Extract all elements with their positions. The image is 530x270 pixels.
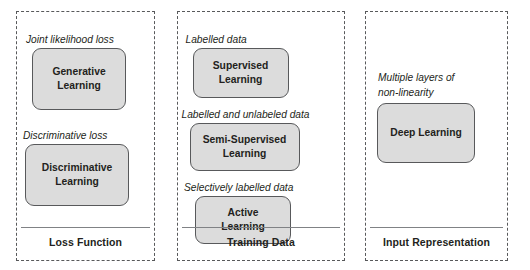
group-panel-loss-function-inner: Joint likelihood loss Generative Learnin… <box>17 12 154 260</box>
caption-selectively-labelled-data: Selectively labelled data <box>184 181 293 194</box>
group-panel-loss-function: Joint likelihood loss Generative Learnin… <box>16 11 155 261</box>
group-panel-input-representation-inner: Multiple layers of non-linearity Deep Le… <box>366 12 507 260</box>
node-label-line-2: Learning <box>219 73 262 87</box>
node-label-line-1: Generative <box>52 65 105 79</box>
node-label-line-1: Active <box>228 206 259 220</box>
node-semi-supervised-learning[interactable]: Semi-Supervised Learning <box>190 123 300 171</box>
item-discriminative-learning: Discriminative loss Discriminative Learn… <box>11 129 160 206</box>
group-footer-loss-function: Loss Function <box>21 227 150 256</box>
node-label-line-1: Discriminative <box>42 161 112 175</box>
group-footer-label-input-representation: Input Representation <box>383 236 490 248</box>
group-body-input-representation: Multiple layers of non-linearity Deep Le… <box>366 12 507 226</box>
taxonomy-diagram: Joint likelihood loss Generative Learnin… <box>0 0 530 270</box>
node-supervised-learning[interactable]: Supervised Learning <box>193 48 289 98</box>
node-label-line-2: Learning <box>57 79 100 93</box>
group-footer-label-loss-function: Loss Function <box>49 236 122 248</box>
node-label-line-2: Learning <box>223 147 266 161</box>
caption-multiple-layers-line-2: non-linearity <box>378 85 434 100</box>
caption-labelled-data: Labelled data <box>186 33 247 46</box>
caption-multiple-layers-line-1: Multiple layers of <box>378 70 454 85</box>
node-generative-learning[interactable]: Generative Learning <box>32 48 126 110</box>
node-deep-learning[interactable]: Deep Learning <box>377 103 475 163</box>
caption-joint-likelihood-loss: Joint likelihood loss <box>26 33 114 46</box>
group-body-loss-function: Joint likelihood loss Generative Learnin… <box>17 12 154 226</box>
group-panel-training-data-inner: Labelled data Supervised Learning Labell… <box>178 12 344 260</box>
group-body-training-data: Labelled data Supervised Learning Labell… <box>178 12 344 226</box>
item-generative-learning: Joint likelihood loss Generative Learnin… <box>8 33 163 110</box>
item-deep-learning: Multiple layers of non-linearity Deep Le… <box>354 70 519 163</box>
group-footer-training-data: Training Data <box>182 227 340 256</box>
group-panel-input-representation: Multiple layers of non-linearity Deep Le… <box>365 11 508 261</box>
node-discriminative-learning[interactable]: Discriminative Learning <box>25 144 129 206</box>
node-label-line-1: Deep Learning <box>390 126 462 140</box>
node-label-line-2: Learning <box>55 175 98 189</box>
caption-discriminative-loss: Discriminative loss <box>23 129 107 142</box>
group-panel-training-data: Labelled data Supervised Learning Labell… <box>177 11 345 261</box>
node-label-line-1: Supervised <box>213 59 269 73</box>
caption-labelled-and-unlabeled-data: Labelled and unlabeled data <box>182 108 310 121</box>
group-footer-input-representation: Input Representation <box>370 227 503 256</box>
node-label-line-1: Semi-Supervised <box>203 133 287 147</box>
group-footer-label-training-data: Training Data <box>227 236 295 248</box>
item-semi-supervised-learning: Labelled and unlabeled data Semi-Supervi… <box>175 108 348 171</box>
item-supervised-learning: Labelled data Supervised Learning <box>171 33 352 98</box>
